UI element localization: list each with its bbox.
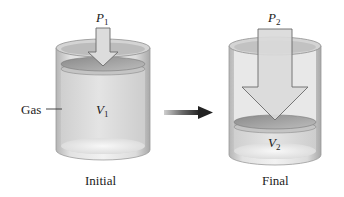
gas-label: Gas — [21, 103, 41, 116]
pressure-symbol: P — [268, 10, 276, 25]
pressure-label-final: P2 — [268, 11, 280, 27]
volume-label-final: V2 — [268, 136, 280, 152]
pressure-subscript: 1 — [104, 17, 109, 27]
caption-initial: Initial — [85, 174, 116, 187]
pressure-symbol: P — [96, 10, 104, 25]
pressure-label-initial: P1 — [96, 11, 108, 27]
right-arrow-icon — [164, 106, 213, 119]
volume-symbol: V — [96, 102, 104, 117]
boyles-law-diagram — [0, 0, 344, 197]
volume-subscript: 2 — [276, 142, 281, 152]
volume-subscript: 1 — [104, 109, 109, 119]
pressure-subscript: 2 — [276, 17, 281, 27]
volume-label-initial: V1 — [96, 103, 108, 119]
volume-symbol: V — [268, 135, 276, 150]
caption-final: Final — [262, 174, 289, 187]
